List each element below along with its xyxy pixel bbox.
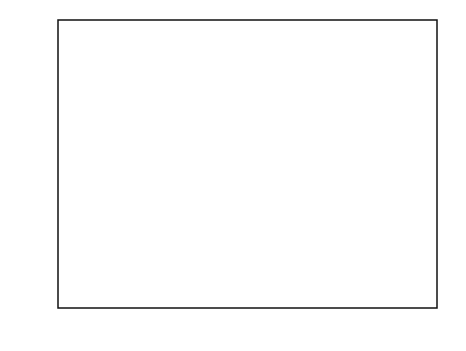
plot-frame xyxy=(58,20,437,308)
axes xyxy=(58,20,437,308)
probability-chart xyxy=(0,0,466,351)
figure-container xyxy=(0,0,466,351)
